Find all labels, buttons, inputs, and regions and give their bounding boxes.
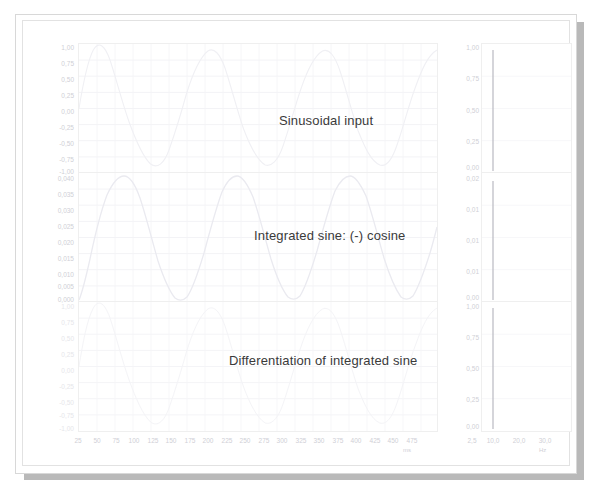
ytick-p2-4: 0,020 (40, 239, 74, 246)
xtick-freq-1: 10,0 (481, 437, 505, 444)
differentiated-sine-spectrum-trace (482, 302, 571, 431)
ytick-p4-4: 0,00 (445, 164, 479, 171)
ytick-p1-3: 0,25 (40, 92, 74, 99)
xtick-freq-2: 20,0 (507, 437, 531, 444)
ytick-p2-5: 0,015 (40, 255, 74, 262)
xaxis-unit-hz: Hz (539, 447, 546, 453)
annotation-sinusoidal-input: Sinusoidal input (279, 113, 373, 128)
annotation-integrated-sine: Integrated sine: (-) cosine (254, 228, 405, 243)
ytick-p2-7: 0,005 (40, 283, 74, 290)
ytick-p4-1: 0,75 (445, 75, 479, 82)
ytick-p4-0: 1,00 (445, 44, 479, 51)
plot-panel-differentiated-sine-spectrum[interactable] (481, 301, 572, 432)
ytick-p1-4: 0,00 (40, 108, 74, 115)
plot-panel-sinusoidal-input-spectrum[interactable] (481, 43, 572, 174)
ytick-p5-1: 0,01 (445, 206, 479, 213)
plot-panel-integrated-sine-spectrum[interactable] (481, 172, 572, 303)
ytick-p3-7: -0,75 (40, 412, 74, 419)
ytick-p1-7: -0,75 (40, 156, 74, 163)
ytick-p4-2: 0,50 (445, 107, 479, 114)
ytick-p6-4: 0,00 (445, 423, 479, 430)
ytick-p6-1: 0,75 (445, 334, 479, 341)
ytick-p2-8: 0,000 (40, 296, 74, 303)
ytick-p2-3: 0,025 (40, 223, 74, 230)
ytick-p2-2: 0,030 (40, 207, 74, 214)
ytick-p3-1: 0,75 (40, 319, 74, 326)
gridlines-horizontal (482, 76, 571, 141)
ytick-p5-3: 0,01 (445, 268, 479, 275)
ytick-p5-0: 0,02 (445, 175, 479, 182)
ytick-p1-5: -0,25 (40, 124, 74, 131)
ytick-p3-4: 0,00 (40, 367, 74, 374)
annotation-differentiated-sine: Differentiation of integrated sine (229, 353, 417, 368)
xaxis-unit-ms: ms (403, 447, 411, 453)
ytick-p4-3: 0,25 (445, 138, 479, 145)
plot-panel-sinusoidal-input[interactable] (78, 43, 438, 174)
figure-canvas: Sinusoidal input Integrated sine: (-) co… (15, 14, 575, 472)
integrated-sine-spectrum-trace (482, 173, 571, 302)
ytick-p5-2: 0,01 (445, 237, 479, 244)
ytick-p6-2: 0,50 (445, 365, 479, 372)
ytick-p3-8: -1,00 (40, 425, 74, 432)
ytick-p3-5: -0,25 (40, 383, 74, 390)
ytick-p1-6: -0,50 (40, 140, 74, 147)
ytick-p3-0: 1,00 (40, 303, 74, 310)
ytick-p3-6: -0,50 (40, 399, 74, 406)
ytick-p3-2: 0,50 (40, 335, 74, 342)
ytick-p3-3: 0,25 (40, 351, 74, 358)
ytick-p5-4: 0,00 (445, 294, 479, 301)
xtick-freq-3: 30,0 (533, 437, 557, 444)
gridlines-horizontal (482, 334, 571, 399)
ytick-p1-8: -1,00 (40, 168, 74, 175)
ytick-p6-0: 1,00 (445, 303, 479, 310)
xtick-time-18: 475 (400, 437, 424, 444)
ytick-p2-1: 0,035 (40, 191, 74, 198)
ytick-p2-0: 0,040 (40, 175, 74, 182)
ytick-p1-0: 1,00 (40, 44, 74, 51)
ytick-p2-6: 0,010 (40, 271, 74, 278)
ytick-p6-3: 0,25 (445, 396, 479, 403)
gridlines-horizontal (482, 205, 571, 270)
sinusoidal-input-spectrum-trace (482, 44, 571, 173)
sinusoidal-input-trace (79, 44, 437, 173)
ytick-p1-2: 0,50 (40, 76, 74, 83)
ytick-p1-1: 0,75 (40, 60, 74, 67)
